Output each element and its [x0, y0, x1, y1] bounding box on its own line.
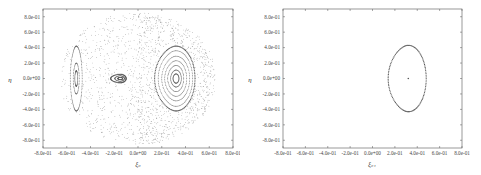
x-tick-label: -2.0e-01 — [106, 150, 124, 156]
y-tick-label: 8.0e-01 — [24, 14, 40, 20]
x-tick-label: -6.0e-01 — [58, 150, 76, 156]
y-tick-label: 4.0e-01 — [24, 44, 40, 50]
data-points — [62, 13, 216, 144]
x-tick-label: -8.0e-01 — [274, 150, 292, 156]
y-tick-label: -6.0e-01 — [23, 122, 41, 128]
y-tick-label: -4.0e-01 — [263, 106, 281, 112]
x-tick-label: 4.0e-01 — [178, 150, 194, 156]
y-tick-label: -4.0e-01 — [23, 106, 41, 112]
data-points — [388, 45, 427, 113]
y-tick-label: -2.0e-01 — [23, 91, 41, 97]
y-tick-label: -8.0e-01 — [23, 137, 41, 143]
plot-frame — [43, 9, 233, 148]
y-axis-label: η — [8, 76, 12, 84]
y-tick-label: 0.0e+00 — [23, 75, 40, 81]
y-tick-label: 8.0e-01 — [264, 14, 280, 20]
x-tick-label: 6.0e-01 — [201, 150, 217, 156]
x-tick-label: 0.0e+00 — [130, 150, 147, 156]
x-tick-label: 2.0e-01 — [387, 150, 403, 156]
y-tick-label: 4.0e-01 — [264, 44, 280, 50]
y-tick-label: -6.0e-01 — [263, 122, 281, 128]
y-tick-label: 2.0e-01 — [24, 60, 40, 66]
x-tick-label: -8.0e-01 — [34, 150, 52, 156]
y-tick-label: 2.0e-01 — [264, 60, 280, 66]
plot-frame — [283, 9, 462, 148]
x-tick-label: 2.0e-01 — [154, 150, 170, 156]
y-axis-label: η — [248, 76, 252, 84]
y-tick-label: 6.0e-01 — [264, 29, 280, 35]
y-tick-label: -2.0e-01 — [263, 91, 281, 97]
x-tick-label: 8.0e-01 — [225, 150, 240, 156]
x-axis-label: ξ₀₁ — [368, 160, 376, 168]
x-tick-label: -4.0e-01 — [82, 150, 100, 156]
y-tick-label: 0.0e+00 — [263, 75, 280, 81]
x-tick-label: 0.0e+00 — [364, 150, 381, 156]
x-tick-label: 8.0e-01 — [454, 150, 470, 156]
left-chart-panel: -8.0e-01-6.0e-01-4.0e-01-2.0e-010.0e+002… — [0, 0, 240, 175]
x-tick-label: 6.0e-01 — [432, 150, 448, 156]
right-chart-panel: -8.0e-01-6.0e-01-4.0e-01-2.0e-010.0e+002… — [240, 0, 481, 175]
y-tick-label: -8.0e-01 — [263, 137, 281, 143]
y-tick-label: 6.0e-01 — [24, 29, 40, 35]
left-poincare-plot: -8.0e-01-6.0e-01-4.0e-01-2.0e-010.0e+002… — [0, 0, 240, 175]
x-axis-label: ξ₀ — [135, 160, 141, 168]
fixed-point-marker — [408, 78, 410, 80]
x-tick-label: -6.0e-01 — [297, 150, 315, 156]
right-poincare-plot: -8.0e-01-6.0e-01-4.0e-01-2.0e-010.0e+002… — [240, 0, 481, 175]
x-tick-label: -2.0e-01 — [341, 150, 359, 156]
x-tick-label: -4.0e-01 — [319, 150, 337, 156]
x-tick-label: 4.0e-01 — [409, 150, 425, 156]
